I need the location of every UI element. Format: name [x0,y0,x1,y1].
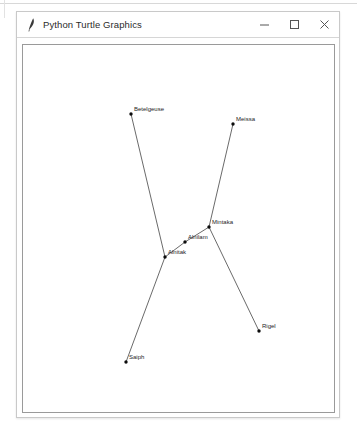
minimize-button[interactable] [249,12,279,37]
star-label: Mintaka [212,219,234,225]
close-button[interactable] [309,12,339,37]
title-bar[interactable]: Python Turtle Graphics [17,12,339,38]
maximize-button[interactable] [279,12,309,37]
window-title: Python Turtle Graphics [43,19,249,30]
star-labels: BetelgeuseMeissaMintakaAlnilamAlnitakRig… [129,106,276,360]
constellation-line [209,124,233,227]
star-marker [257,329,260,332]
constellation-line [209,227,259,331]
constellation-plot: BetelgeuseMeissaMintakaAlnilamAlnitakRig… [23,45,334,412]
star-label: Betelgeuse [134,106,165,112]
star-label: Saiph [129,354,144,360]
star-marker [129,112,132,115]
constellation-line [131,114,165,257]
star-label: Meissa [236,116,256,122]
constellation-line [126,257,165,362]
star-marker [124,360,127,363]
star-marker [231,122,234,125]
star-marker [183,240,186,243]
star-label: Alnilam [188,234,208,240]
star-label: Rigel [262,323,276,329]
turtle-pen-icon [24,17,38,33]
turtle-graphics-window: Python Turtle Graphics BetelgeuseMeissaM… [16,11,340,418]
star-marker [163,255,166,258]
star-label: Alnitak [168,249,187,255]
scan-artifact-top [0,3,357,4]
star-marker [207,225,210,228]
scan-artifact-left [4,0,5,18]
turtle-drawing-canvas[interactable]: BetelgeuseMeissaMintakaAlnilamAlnitakRig… [22,44,335,413]
